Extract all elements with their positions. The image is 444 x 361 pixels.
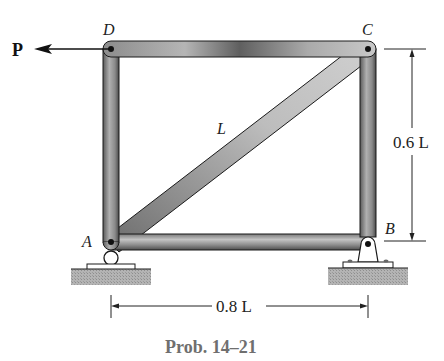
joint-label-c: C (362, 21, 373, 38)
truss-diagram: P D C A B L 0.6 L 0.8 L P (0, 0, 444, 361)
figure-caption: Prob. 14–21 (165, 337, 257, 357)
member-da (103, 49, 119, 250)
joint-label-b: B (385, 220, 395, 237)
joint-label-d: D (102, 21, 115, 38)
member-dc (103, 41, 376, 57)
dimension-vertical: 0.6 L (384, 49, 429, 241)
joint-label-a: A (81, 233, 92, 250)
member-ab (111, 234, 368, 250)
truss-figure: P D C A B L 0.6 L 0.8 L P (0, 0, 444, 361)
load-label: P (12, 40, 23, 60)
arrow-left-icon (111, 304, 119, 309)
arrow-down-icon (410, 233, 415, 241)
roller-support-a (71, 251, 151, 285)
dimension-horizontal-label: 0.8 L (216, 297, 252, 316)
dimension-vertical-label: 0.6 L (393, 133, 429, 152)
pin-a-icon (108, 239, 114, 245)
dimension-horizontal: 0.8 L (111, 295, 368, 318)
arrow-right-icon (360, 304, 368, 309)
pin-c-icon (365, 46, 371, 52)
member-ac (105, 42, 374, 252)
member-cb (360, 49, 376, 237)
diagonal-length-label: L (216, 120, 226, 137)
arrow-up-icon (410, 49, 415, 57)
load-p: P (12, 40, 111, 60)
